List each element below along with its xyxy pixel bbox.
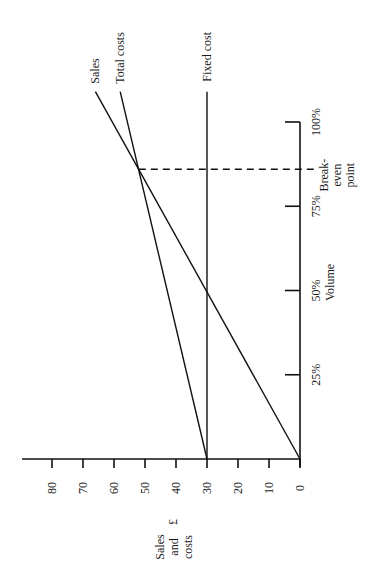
break-even-label: point <box>343 162 357 187</box>
y-axis-title-line: costs <box>181 535 195 559</box>
y-tick-label: 30 <box>200 482 214 494</box>
y-tick-label: 20 <box>231 482 245 494</box>
y-tick-label: 0 <box>293 485 307 491</box>
y-axis-title: Salesandcosts <box>153 534 195 560</box>
series-label: Total costs <box>113 32 127 84</box>
y-axis-title-line: and <box>167 538 181 555</box>
break-even-chart: 01020304050607080 25%50%75%100% SalesTot… <box>0 0 372 568</box>
break-even-label: Break- <box>317 159 331 192</box>
series-line-sales <box>95 92 300 459</box>
series-label: Sales <box>88 58 102 84</box>
x-axis-title: Volume <box>323 264 337 301</box>
x-tick-label: 50% <box>309 280 323 302</box>
break-even-label: even <box>330 164 344 187</box>
series-line-total-costs <box>120 92 207 459</box>
x-tick-label: 75% <box>309 195 323 217</box>
x-tick-label: 25% <box>309 364 323 386</box>
y-axis-title-line: Sales <box>153 534 167 560</box>
series-label: Fixed cost <box>200 31 214 81</box>
y-tick-label: 60 <box>107 482 121 494</box>
y-tick-label: 10 <box>262 482 276 494</box>
x-tick-label: 100% <box>309 108 323 136</box>
y-tick-label: 70 <box>76 482 90 494</box>
y-tick-label: 50 <box>138 482 152 494</box>
y-tick-label: 40 <box>169 482 183 494</box>
currency-label: £ <box>166 519 180 525</box>
y-tick-label: 80 <box>45 482 59 494</box>
